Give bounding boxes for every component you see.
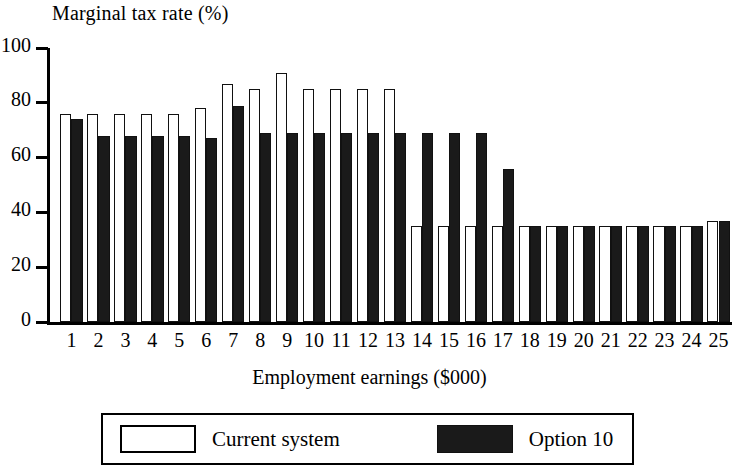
bar-group	[193, 48, 220, 322]
bar-group	[408, 48, 435, 322]
bar-current-system	[438, 226, 449, 322]
y-tick-label-80: 80	[11, 89, 31, 109]
legend-row: Current systemOption 10	[103, 415, 632, 463]
bar-group	[166, 48, 193, 322]
legend-item: Current system	[120, 425, 340, 453]
bar-group	[274, 48, 301, 322]
bar-group	[705, 48, 732, 322]
y-tick-100: 100	[36, 47, 48, 50]
bar-group	[139, 48, 166, 322]
x-tick-label-21: 21	[601, 328, 621, 352]
x-tick-label-9: 9	[282, 328, 292, 352]
bar-option-10	[530, 226, 541, 322]
bar-group	[58, 48, 85, 322]
bar-group	[355, 48, 382, 322]
x-tick-label-22: 22	[628, 328, 648, 352]
bar-group	[489, 48, 516, 322]
bar-group	[597, 48, 624, 322]
y-tick-label-20: 20	[11, 254, 31, 274]
bar-option-10	[98, 136, 109, 322]
bar-option-10	[206, 138, 217, 322]
x-tick-label-17: 17	[493, 328, 513, 352]
bar-group	[382, 48, 409, 322]
x-tick-label-20: 20	[574, 328, 594, 352]
bar-option-10	[179, 136, 190, 322]
bar-group	[247, 48, 274, 322]
x-tick-label-8: 8	[255, 328, 265, 352]
bar-current-system	[546, 226, 557, 322]
bar-current-system	[303, 89, 314, 322]
bar-option-10	[395, 133, 406, 322]
bar-option-10	[341, 133, 352, 322]
bar-option-10	[638, 226, 649, 322]
x-tick-label-14: 14	[412, 328, 432, 352]
bar-current-system	[195, 108, 206, 322]
y-tick-80: 80	[36, 101, 48, 104]
bar-group	[85, 48, 112, 322]
x-tick-label-4: 4	[147, 328, 157, 352]
y-tick-label-60: 60	[11, 144, 31, 164]
bar-option-10	[611, 226, 622, 322]
bar-current-system	[680, 226, 691, 322]
y-axis-title: Marginal tax rate (%)	[52, 2, 229, 25]
bar-current-system	[357, 89, 368, 322]
x-tick-label-15: 15	[439, 328, 459, 352]
plot-area: 100806040200	[58, 48, 732, 322]
x-tick-label-19: 19	[547, 328, 567, 352]
bar-group	[220, 48, 247, 322]
bar-option-10	[719, 221, 730, 322]
bar-option-10	[287, 133, 298, 322]
bar-group	[301, 48, 328, 322]
bar-current-system	[114, 114, 125, 322]
bar-option-10	[557, 226, 568, 322]
chart-legend: Current systemOption 10	[101, 413, 634, 465]
x-tick-label-6: 6	[201, 328, 211, 352]
bar-group	[462, 48, 489, 322]
bar-current-system	[707, 221, 718, 322]
x-tick-label-25: 25	[709, 328, 729, 352]
x-axis-line	[47, 322, 732, 325]
y-tick-20: 20	[36, 266, 48, 269]
y-tick-40: 40	[36, 211, 48, 214]
bar-option-10	[665, 226, 676, 322]
bar-current-system	[411, 226, 422, 322]
x-tick-label-10: 10	[304, 328, 324, 352]
bar-current-system	[168, 114, 179, 322]
x-tick-label-12: 12	[358, 328, 378, 352]
bar-option-10	[503, 169, 514, 322]
bar-series-container	[58, 48, 732, 322]
bar-group	[516, 48, 543, 322]
bar-group	[570, 48, 597, 322]
y-tick-60: 60	[36, 156, 48, 159]
chart-figure: Marginal tax rate (%) 100806040200 12345…	[0, 0, 739, 468]
legend-label: Current system	[212, 427, 340, 452]
x-tick-label-2: 2	[93, 328, 103, 352]
x-tick-label-3: 3	[120, 328, 130, 352]
bar-option-10	[314, 133, 325, 322]
bar-current-system	[653, 226, 664, 322]
bar-group	[678, 48, 705, 322]
bar-current-system	[384, 89, 395, 322]
legend-item: Option 10	[437, 425, 614, 453]
x-tick-label-23: 23	[655, 328, 675, 352]
bar-group	[543, 48, 570, 322]
bar-current-system	[87, 114, 98, 322]
bar-option-10	[692, 226, 703, 322]
x-tick-label-16: 16	[466, 328, 486, 352]
bar-group	[328, 48, 355, 322]
bar-current-system	[573, 226, 584, 322]
x-tick-label-24: 24	[682, 328, 702, 352]
y-tick-label-40: 40	[11, 199, 31, 219]
x-tick-label-18: 18	[520, 328, 540, 352]
x-tick-label-11: 11	[331, 328, 350, 352]
black-filled-swatch	[437, 425, 513, 453]
bar-group	[624, 48, 651, 322]
bar-current-system	[465, 226, 476, 322]
bar-option-10	[71, 119, 82, 322]
bar-option-10	[233, 106, 244, 322]
y-tick-label-100: 100	[1, 35, 31, 55]
legend-label: Option 10	[529, 427, 614, 452]
x-tick-label-5: 5	[174, 328, 184, 352]
y-tick-0: 0	[36, 321, 48, 324]
bar-option-10	[584, 226, 595, 322]
